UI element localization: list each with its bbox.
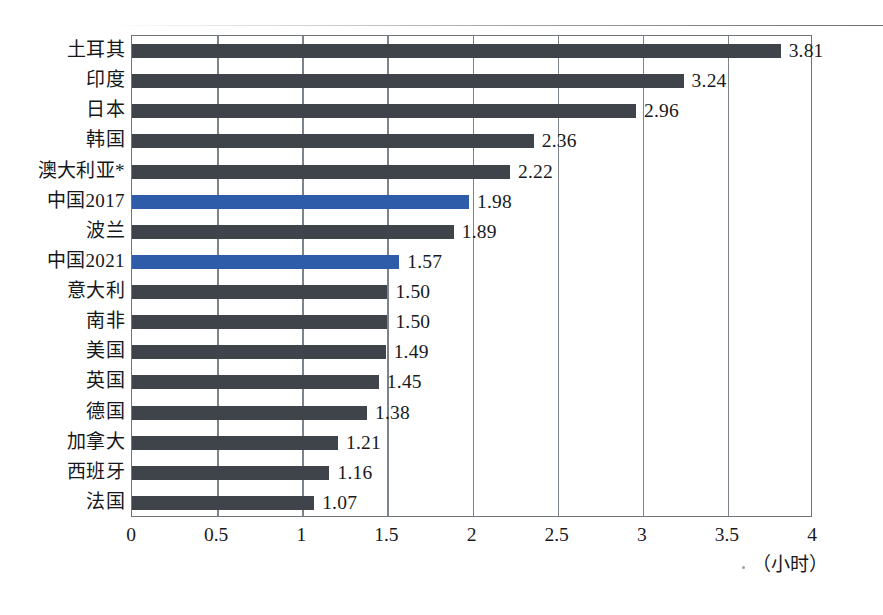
x-tick-label: 4 — [807, 521, 817, 549]
bar — [132, 375, 379, 389]
bar-rows: 3.813.242.962.362.221.981.891.571.501.50… — [132, 36, 811, 516]
bar — [132, 165, 510, 179]
bar-row: 2.22 — [132, 157, 811, 187]
bar-value-label: 3.24 — [692, 68, 727, 94]
bar-row: 2.36 — [132, 126, 811, 156]
x-tick-label: 2 — [467, 521, 477, 549]
bar-row: 1.98 — [132, 187, 811, 217]
bar — [132, 436, 338, 450]
bar-value-label: 1.50 — [395, 309, 430, 335]
bar-row: 1.38 — [132, 398, 811, 428]
bar-value-label: 2.22 — [518, 159, 553, 185]
bar — [132, 255, 399, 269]
bar-value-label: 1.21 — [346, 430, 381, 456]
bar — [132, 225, 454, 239]
bar-value-label: 2.36 — [542, 128, 577, 154]
category-label: 美国 — [0, 336, 125, 366]
bar — [132, 134, 534, 148]
bar-row: 1.45 — [132, 367, 811, 397]
category-label: 澳大利亚* — [0, 156, 125, 186]
category-label: 波兰 — [0, 216, 125, 246]
bar — [132, 285, 387, 299]
bar-value-label: 1.49 — [394, 339, 429, 365]
category-label: 西班牙 — [0, 457, 125, 487]
bar-row: 3.81 — [132, 36, 811, 66]
bar — [132, 345, 386, 359]
bar — [132, 466, 329, 480]
category-label: 印度 — [0, 65, 125, 95]
bar-value-label: 1.57 — [407, 249, 442, 275]
x-tick-label: 3.5 — [715, 521, 739, 549]
category-label: 法国 — [0, 487, 125, 517]
bar-row: 1.21 — [132, 428, 811, 458]
category-axis: 土耳其印度日本韩国澳大利亚*中国2017波兰中国2021意大利南非美国英国德国加… — [0, 35, 125, 517]
category-label: 韩国 — [0, 125, 125, 155]
x-axis-ticks: 00.511.522.533.54 — [131, 521, 812, 551]
x-axis-unit-label: （小时） — [752, 552, 828, 578]
bar — [132, 44, 781, 58]
category-label: 中国2017 — [0, 186, 125, 216]
category-label: 加拿大 — [0, 427, 125, 457]
plot-area: 3.813.242.962.362.221.981.891.571.501.50… — [131, 35, 812, 517]
bar-row: 1.89 — [132, 217, 811, 247]
bar-row: 1.57 — [132, 247, 811, 277]
bar — [132, 104, 636, 118]
bar-value-label: 2.96 — [644, 98, 679, 124]
category-label: 意大利 — [0, 276, 125, 306]
bar-value-label: 1.98 — [477, 189, 512, 215]
bar-row: 1.50 — [132, 307, 811, 337]
x-tick-label: 3 — [637, 521, 647, 549]
bar-value-label: 1.89 — [462, 219, 497, 245]
x-tick-label: 1 — [296, 521, 306, 549]
x-tick-label: 1.5 — [374, 521, 398, 549]
bar-row: 1.07 — [132, 488, 811, 518]
bar-row: 1.49 — [132, 337, 811, 367]
bar — [132, 406, 367, 420]
bar — [132, 195, 469, 209]
x-tick-label: 2.5 — [544, 521, 568, 549]
bar-value-label: 1.38 — [375, 400, 410, 426]
bar-row: 2.96 — [132, 96, 811, 126]
category-label: 南非 — [0, 306, 125, 336]
scan-artifact-line — [110, 25, 883, 26]
category-label: 土耳其 — [0, 35, 125, 65]
category-label: 英国 — [0, 366, 125, 396]
category-label: 中国2021 — [0, 246, 125, 276]
bar-value-label: 1.16 — [337, 460, 372, 486]
bar-value-label: 3.81 — [789, 38, 824, 64]
bar-chart: 土耳其印度日本韩国澳大利亚*中国2017波兰中国2021意大利南非美国英国德国加… — [0, 0, 883, 615]
category-label: 日本 — [0, 95, 125, 125]
x-tick-label: 0.5 — [204, 521, 228, 549]
bar-value-label: 1.07 — [322, 490, 357, 516]
bar-row: 1.16 — [132, 458, 811, 488]
x-tick-label: 0 — [126, 521, 136, 549]
bar — [132, 74, 684, 88]
bar-row: 3.24 — [132, 66, 811, 96]
bar — [132, 315, 387, 329]
category-label: 德国 — [0, 397, 125, 427]
bar-value-label: 1.50 — [395, 279, 430, 305]
unit-dot-artifact — [742, 566, 745, 569]
bar-row: 1.50 — [132, 277, 811, 307]
bar — [132, 496, 314, 510]
bar-value-label: 1.45 — [387, 369, 422, 395]
